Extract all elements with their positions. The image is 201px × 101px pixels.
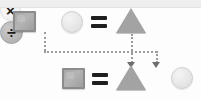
arrowhead-divide-icon xyxy=(152,62,160,68)
square-shape-top[interactable] xyxy=(13,11,36,32)
diagram-title: Shape equation rearrangement xyxy=(0,44,1,45)
square-shape-bottom-label: square xyxy=(0,21,1,22)
equals-sign-top xyxy=(91,15,107,29)
equals-sign-bottom-label: = xyxy=(0,21,1,22)
equals-sign-bottom xyxy=(92,72,108,86)
connector-multiply-vertical xyxy=(44,32,46,51)
shape-equation-diagram: square × circle = triangle square xyxy=(0,0,201,101)
circle-shape-bottom-label: circle xyxy=(0,44,1,45)
top-banner-edge xyxy=(0,7,201,8)
connector-triangle-vertical xyxy=(131,34,133,63)
connector-horizontal-bus xyxy=(44,51,157,53)
triangle-shape-bottom[interactable] xyxy=(116,65,146,90)
circle-shape-top[interactable] xyxy=(61,11,83,33)
triangle-shape-bottom-label: triangle xyxy=(0,21,1,22)
triangle-shape-top[interactable] xyxy=(116,8,146,33)
square-shape-bottom[interactable] xyxy=(62,68,85,89)
circle-shape-bottom[interactable] xyxy=(171,67,193,89)
